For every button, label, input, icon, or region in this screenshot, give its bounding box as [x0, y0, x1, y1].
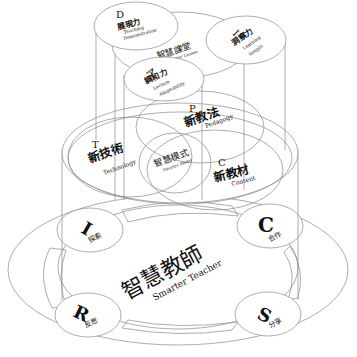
svg-text:D: D	[116, 9, 124, 20]
top-tier: 智慧課堂 Smarter Lesson D 展現力 Teaching Demon…	[94, 2, 286, 101]
smarter-teacher-diagram: I 探索 C 合作 R 反思 S 分享 智慧教師 Smarter Teacher	[0, 0, 357, 357]
middle-tier: T 新技術 Technology P 新教法 Pedagogy C 新教材 Co…	[62, 91, 298, 210]
bottom-node-c: C 合作	[237, 204, 303, 248]
bottom-node-r: R 反思	[55, 293, 121, 337]
top-node-d: D 展現力 Teaching Demonstration	[94, 2, 178, 50]
bottom-tier: I 探索 C 合作 R 反思 S 分享 智慧教師 Smarter Teacher	[8, 195, 348, 345]
svg-text:C: C	[218, 157, 226, 168]
tab-bottom	[122, 320, 238, 334]
center-title: 智慧教師 Smarter Teacher	[118, 234, 225, 313]
bottom-node-i: I 探索	[57, 208, 123, 252]
top-node-i: I 洞察力 Learning Insight	[206, 16, 286, 64]
top-node-a: A 調和力 Lecture Adaptability	[124, 57, 204, 101]
bottom-node-s: S 分享	[235, 292, 301, 336]
tab-left	[43, 248, 66, 308]
